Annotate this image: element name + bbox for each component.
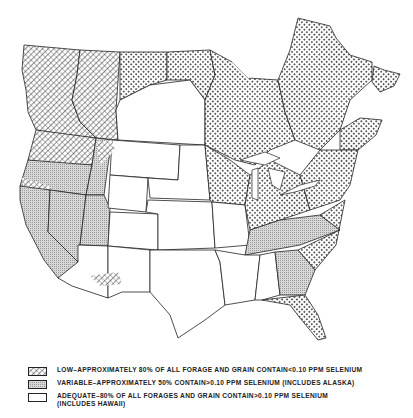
region-texas-oklahoma bbox=[150, 250, 225, 338]
legend-item-variable: VARIABLE–APPROXIMATELY 50% CONTAIN>0.10 … bbox=[28, 379, 408, 389]
selenium-map bbox=[0, 0, 413, 345]
legend-label-low: LOW–APPROXIMATELY 80% OF ALL FORAGE AND … bbox=[57, 366, 362, 374]
legend-label-adequate: ADEQUATE–80% OF ALL FORAGES AND GRAIN CO… bbox=[57, 392, 328, 400]
crosshatch-swatch-icon bbox=[28, 367, 47, 376]
map-legend: LOW–APPROXIMATELY 80% OF ALL FORAGE AND … bbox=[28, 366, 408, 410]
region-northeast bbox=[300, 150, 358, 210]
legend-item-low: LOW–APPROXIMATELY 80% OF ALL FORAGE AND … bbox=[28, 366, 408, 376]
region-iowa-missouri bbox=[212, 202, 250, 248]
blank-swatch-icon bbox=[28, 393, 47, 402]
stipple-swatch-icon bbox=[28, 380, 47, 389]
legend-label-variable: VARIABLE–APPROXIMATELY 50% CONTAIN>0.10 … bbox=[57, 379, 355, 387]
region-newfoundland bbox=[372, 66, 400, 92]
legend-label-adequate-note: (INCLUDES HAWAII) bbox=[57, 400, 328, 408]
legend-item-adequate: ADEQUATE–80% OF ALL FORAGES AND GRAIN CO… bbox=[28, 392, 408, 407]
region-montana bbox=[110, 140, 180, 180]
region-new-mexico bbox=[108, 246, 150, 298]
lake-michigan bbox=[252, 168, 258, 200]
region-maritimes bbox=[340, 118, 382, 150]
region-wyoming bbox=[108, 175, 148, 212]
region-florida bbox=[262, 295, 326, 340]
region-colorado bbox=[108, 212, 158, 250]
